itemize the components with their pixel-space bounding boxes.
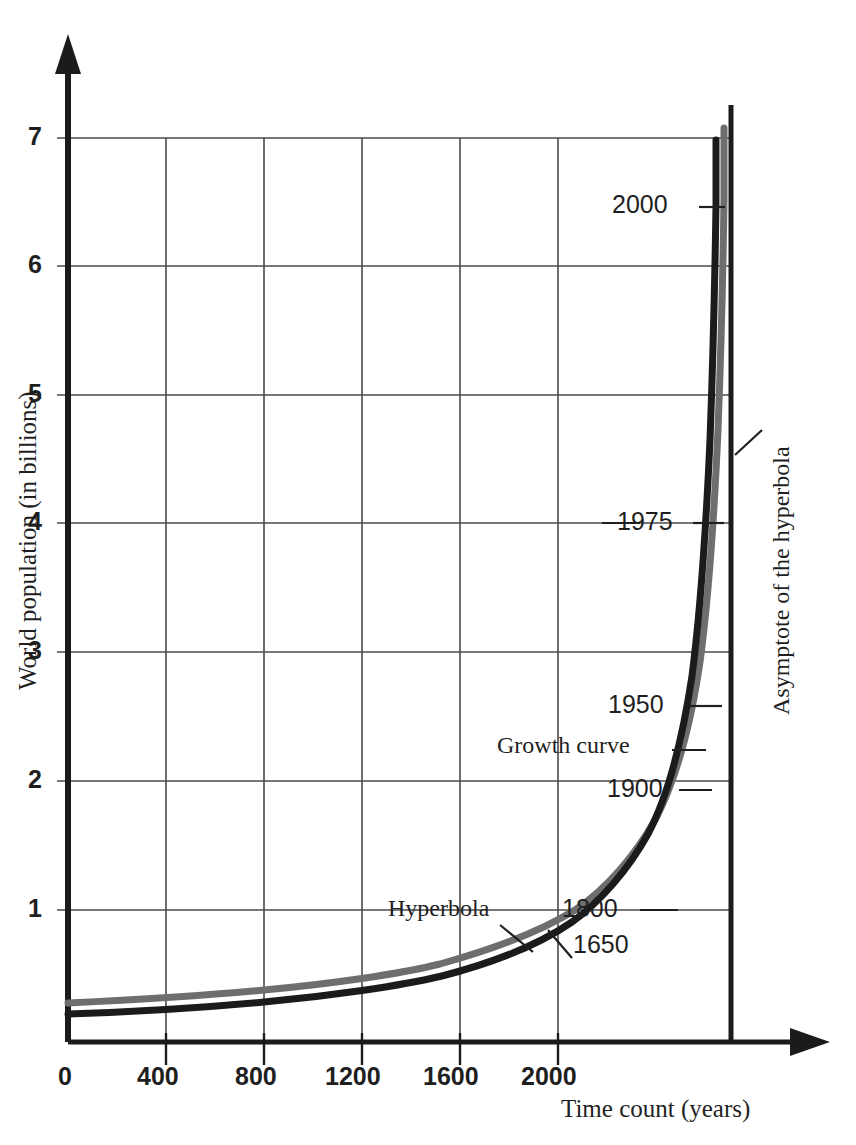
x-tick-label-2000: 2000	[521, 1062, 577, 1091]
annotation-asymptote: Asymptote of the hyperbola	[768, 446, 795, 715]
x-tick-label-1600: 1600	[423, 1062, 479, 1091]
x-tick-marks	[166, 1033, 558, 1065]
leader-1650	[548, 930, 572, 958]
x-tick-label-1200: 1200	[325, 1062, 381, 1091]
annotation-year-2000: 2000	[612, 190, 668, 219]
leader-asymptote	[735, 430, 762, 455]
grid-vertical	[166, 138, 558, 1053]
y-tick-label-6: 6	[28, 250, 42, 279]
annotation-hyperbola: Hyperbola	[388, 895, 489, 922]
y-tick-label-1: 1	[28, 894, 42, 923]
y-tick-label-2: 2	[28, 765, 42, 794]
y-axis-title: World population (in billions)	[14, 391, 42, 690]
annotation-growth-curve: Growth curve	[497, 732, 630, 759]
x-tick-label-800: 800	[235, 1062, 277, 1091]
x-axis-title: Time count (years)	[561, 1095, 750, 1123]
annotation-year-1800: 1800	[562, 894, 618, 923]
annotation-year-1950: 1950	[608, 690, 664, 719]
annotation-year-1975: 1975	[617, 507, 673, 536]
x-tick-label-0: 0	[58, 1062, 72, 1091]
population-growth-chart: 7 6 5 4 3 2 1 0 400 800 1200 1600 2000 T…	[0, 0, 856, 1145]
x-tick-label-400: 400	[137, 1062, 179, 1091]
y-tick-label-7: 7	[28, 122, 42, 151]
annotation-year-1650: 1650	[573, 930, 629, 959]
y-axis	[55, 34, 81, 1042]
chart-canvas	[0, 0, 856, 1145]
annotation-year-1900: 1900	[607, 774, 663, 803]
x-axis	[68, 1028, 830, 1056]
